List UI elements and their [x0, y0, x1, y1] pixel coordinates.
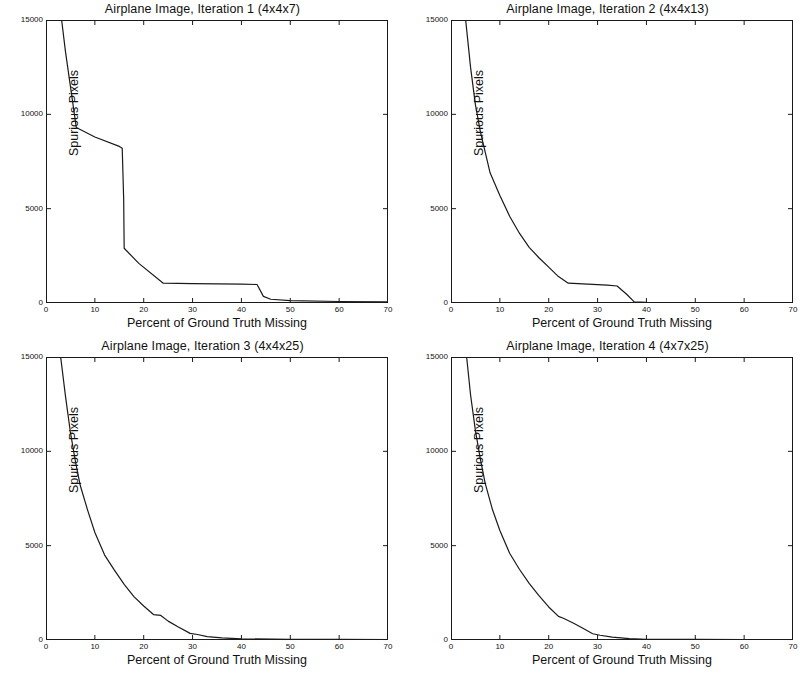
y-tick-label-group: 050001000015000 — [411, 20, 448, 303]
data-series-line — [62, 20, 388, 302]
plot-area — [46, 20, 388, 303]
x-tick-label: 0 — [36, 306, 56, 314]
plot-box — [452, 21, 793, 303]
plot-box — [452, 358, 793, 640]
chart-title: Airplane Image, Iteration 1 (4x4x7) — [0, 2, 405, 16]
x-axis-label: Percent of Ground Truth Missing — [46, 316, 388, 330]
x-tick-label: 20 — [539, 306, 559, 314]
x-tick-label: 70 — [378, 643, 398, 651]
figure-four-panel-chart-grid: Airplane Image, Iteration 1 (4x4x7)Spuri… — [0, 0, 810, 674]
plot-area — [451, 20, 793, 303]
y-tick-label: 5000 — [430, 205, 448, 213]
plot-svg — [451, 20, 793, 303]
data-series-line — [466, 20, 793, 303]
y-tick-label: 5000 — [25, 542, 43, 550]
x-tick-label: 20 — [134, 306, 154, 314]
data-series-line — [61, 357, 388, 640]
chart-panel-2: Airplane Image, Iteration 2 (4x4x13)Spur… — [405, 0, 810, 337]
x-tick-label: 20 — [539, 643, 559, 651]
chart-title: Airplane Image, Iteration 2 (4x4x13) — [405, 2, 810, 16]
x-tick-label: 70 — [378, 306, 398, 314]
x-tick-label: 70 — [783, 306, 803, 314]
chart-panel-4: Airplane Image, Iteration 4 (4x7x25)Spur… — [405, 337, 810, 674]
chart-panel-1: Airplane Image, Iteration 1 (4x4x7)Spuri… — [0, 0, 405, 337]
y-tick-label: 15000 — [426, 353, 448, 361]
data-series-line — [467, 357, 793, 640]
x-tick-label: 10 — [490, 643, 510, 651]
x-tick-label: 0 — [36, 643, 56, 651]
chart-title: Airplane Image, Iteration 4 (4x7x25) — [405, 339, 810, 353]
x-axis-label: Percent of Ground Truth Missing — [451, 316, 793, 330]
y-tick-label: 10000 — [426, 447, 448, 455]
chart-title: Airplane Image, Iteration 3 (4x4x25) — [0, 339, 405, 353]
x-tick-label: 40 — [231, 643, 251, 651]
x-tick-label: 30 — [183, 643, 203, 651]
y-tick-label-group: 050001000015000 — [6, 357, 43, 640]
plot-svg — [46, 20, 388, 303]
x-tick-label: 40 — [231, 306, 251, 314]
x-tick-label: 40 — [636, 643, 656, 651]
y-tick-label: 15000 — [21, 16, 43, 24]
x-tick-label-group: 010203040506070 — [451, 306, 793, 318]
x-tick-label: 60 — [329, 306, 349, 314]
x-tick-label-group: 010203040506070 — [451, 643, 793, 655]
x-tick-label: 10 — [490, 306, 510, 314]
x-tick-label: 50 — [280, 306, 300, 314]
plot-area — [451, 357, 793, 640]
x-tick-label: 40 — [636, 306, 656, 314]
x-tick-label: 60 — [329, 643, 349, 651]
y-tick-label: 10000 — [21, 110, 43, 118]
x-tick-label-group: 010203040506070 — [46, 306, 388, 318]
y-tick-label: 10000 — [21, 447, 43, 455]
x-tick-label: 30 — [588, 643, 608, 651]
x-tick-label: 60 — [734, 643, 754, 651]
x-tick-label: 70 — [783, 643, 803, 651]
x-tick-label-group: 010203040506070 — [46, 643, 388, 655]
x-tick-label: 20 — [134, 643, 154, 651]
plot-svg — [46, 357, 388, 640]
x-tick-label: 30 — [588, 306, 608, 314]
x-tick-label: 10 — [85, 306, 105, 314]
x-tick-label: 0 — [441, 306, 461, 314]
plot-svg — [451, 357, 793, 640]
x-tick-label: 50 — [685, 643, 705, 651]
plot-box — [47, 21, 388, 303]
x-tick-label: 0 — [441, 643, 461, 651]
plot-box — [47, 358, 388, 640]
x-tick-label: 50 — [685, 306, 705, 314]
y-tick-label: 15000 — [21, 353, 43, 361]
y-tick-label: 5000 — [430, 542, 448, 550]
y-tick-label-group: 050001000015000 — [411, 357, 448, 640]
x-tick-label: 10 — [85, 643, 105, 651]
x-tick-label: 50 — [280, 643, 300, 651]
x-axis-label: Percent of Ground Truth Missing — [46, 653, 388, 667]
y-tick-label: 5000 — [25, 205, 43, 213]
x-tick-label: 60 — [734, 306, 754, 314]
chart-panel-3: Airplane Image, Iteration 3 (4x4x25)Spur… — [0, 337, 405, 674]
x-tick-label: 30 — [183, 306, 203, 314]
y-tick-label: 10000 — [426, 110, 448, 118]
x-axis-label: Percent of Ground Truth Missing — [451, 653, 793, 667]
y-tick-label: 15000 — [426, 16, 448, 24]
y-tick-label-group: 050001000015000 — [6, 20, 43, 303]
plot-area — [46, 357, 388, 640]
